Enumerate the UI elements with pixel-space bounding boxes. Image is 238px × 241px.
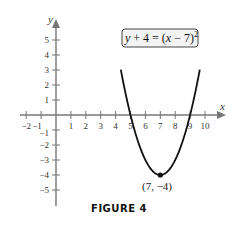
x-tick-label: 6 xyxy=(143,121,148,131)
y-axis-arrow-icon xyxy=(52,19,60,28)
x-tick-label: 1 xyxy=(69,121,74,131)
y-tick-label: 3 xyxy=(45,65,50,75)
x-axis-arrow-icon xyxy=(217,111,226,119)
x-tick-label: 7 xyxy=(158,121,163,131)
x-tick-label: −2 xyxy=(21,121,31,131)
y-tick-label: 4 xyxy=(45,50,50,60)
x-tick-label: 10 xyxy=(201,121,211,131)
y-axis-label: y xyxy=(47,13,53,25)
x-tick-label: 2 xyxy=(84,121,89,131)
y-tick-label: 5 xyxy=(45,35,50,45)
y-tick-label: −4 xyxy=(39,170,49,180)
vertex-point xyxy=(158,172,163,177)
y-axis xyxy=(52,19,60,206)
y-tick-label: 2 xyxy=(45,80,50,90)
x-axis-ticks: −2−112345678910 xyxy=(21,111,210,131)
svg-text:y + 4 = (x − 7)2: y + 4 = (x − 7)2 xyxy=(124,30,198,45)
x-tick-label: 4 xyxy=(113,121,118,131)
x-axis-label: x xyxy=(219,100,225,112)
figure-caption: FIGURE 4 xyxy=(0,203,238,214)
vertex-label: (7, −4) xyxy=(142,180,172,193)
y-tick-label: −3 xyxy=(39,155,49,165)
equation-rhs: − 7) xyxy=(171,31,194,45)
equation-exponent: 2 xyxy=(194,30,198,39)
x-axis xyxy=(20,111,226,119)
y-tick-label: −2 xyxy=(39,140,49,150)
x-tick-label: 3 xyxy=(98,121,103,131)
equation-lhs: + 4 = ( xyxy=(130,31,166,45)
equation-label: y + 4 = (x − 7)2 xyxy=(122,29,198,47)
y-tick-label: 1 xyxy=(45,95,50,105)
y-tick-label: −1 xyxy=(39,128,49,138)
y-tick-label: −5 xyxy=(39,185,49,195)
x-tick-label: 8 xyxy=(173,121,178,131)
